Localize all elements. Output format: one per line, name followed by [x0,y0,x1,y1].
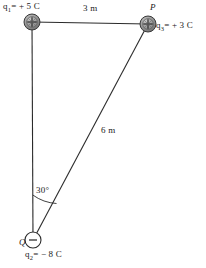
charge-symbol-q3 [140,16,156,32]
charge-q3-value: = + 3 C [164,20,193,30]
point-label-Q: Q [19,238,26,247]
charge-q1-label: q1= + 5 C [3,2,40,13]
charge-q2-value: = − 8 C [33,249,62,259]
dimension-label-3m: 3 m [83,4,97,13]
charge-q2-label: q2= − 8 C [25,250,62,261]
physics-charge-diagram: q1= + 5 C 3 m P q3= + 3 C 6 m 30° Q q2= … [0,0,206,268]
charge-symbol-q1 [24,14,40,30]
point-label-P: P [150,3,156,12]
charge-q3-label: q3= + 3 C [156,21,193,32]
charge-symbol-q2 [25,232,41,248]
dimension-label-6m: 6 m [101,126,115,135]
angle-label-30deg: 30° [36,186,49,195]
side-q1-q2 [32,22,33,240]
charge-q1-value: = + 5 C [11,1,40,11]
side-q2-q3 [33,24,148,240]
side-q1-q3 [32,22,148,24]
